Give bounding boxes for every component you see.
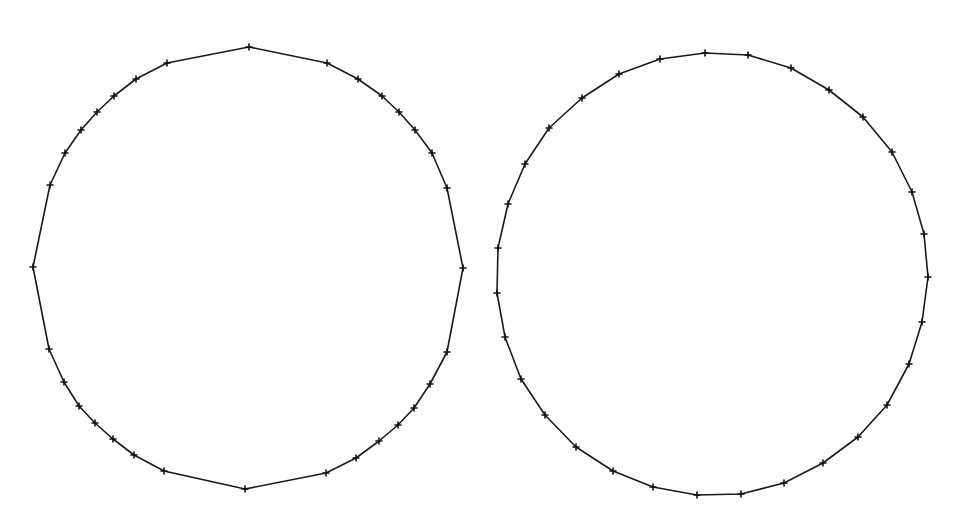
point-marker-icon: [444, 349, 450, 355]
point-marker-icon: [650, 484, 656, 490]
point-marker-icon: [657, 56, 663, 62]
point-marker-icon: [694, 492, 700, 498]
point-marker-icon: [925, 274, 931, 280]
point-marker-icon: [242, 486, 248, 492]
point-marker-icon: [502, 334, 508, 340]
diagram-canvas: [0, 0, 967, 518]
point-marker-icon: [30, 264, 36, 270]
point-marker-icon: [505, 201, 511, 207]
point-marker-icon: [46, 346, 52, 352]
point-marker-icon: [906, 361, 912, 367]
point-marker-icon: [444, 185, 450, 191]
point-marker-icon: [738, 491, 744, 497]
point-marker-icon: [702, 50, 708, 56]
point-marker-icon: [161, 468, 167, 474]
point-marker-icon: [324, 60, 330, 66]
right-circle-polygon: [494, 50, 931, 498]
point-marker-icon: [909, 189, 915, 195]
point-marker-icon: [323, 470, 329, 476]
point-marker-icon: [164, 60, 170, 66]
point-marker-icon: [495, 245, 501, 251]
point-marker-icon: [745, 52, 751, 58]
point-marker-icon: [460, 265, 466, 271]
left-polygon-point-markers: [30, 44, 466, 492]
point-marker-icon: [246, 44, 252, 50]
point-marker-icon: [919, 319, 925, 325]
point-marker-icon: [921, 231, 927, 237]
left-circle-polygon: [30, 44, 466, 492]
point-marker-icon: [47, 182, 53, 188]
point-marker-icon: [781, 480, 787, 486]
point-marker-icon: [494, 290, 500, 296]
